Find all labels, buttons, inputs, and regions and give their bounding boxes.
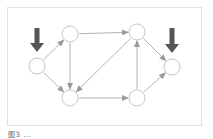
sink-marker-down-arrow-icon: [165, 28, 179, 53]
edge-A-C: [43, 72, 63, 91]
node-A: [29, 58, 45, 74]
edge-B-D: [79, 32, 128, 33]
edge-A-B: [43, 40, 63, 59]
source-marker-down-arrow-icon: [30, 28, 44, 52]
node-F: [164, 59, 180, 75]
edge-E-F: [144, 73, 166, 92]
edge-D-F: [143, 38, 165, 60]
directed-graph: [0, 0, 213, 139]
node-B: [62, 26, 78, 42]
markers-group: [30, 28, 179, 53]
node-D: [129, 24, 145, 40]
edge-D-C: [76, 38, 130, 91]
node-C: [62, 90, 78, 106]
figure-caption: 图3 ...: [8, 131, 31, 139]
nodes-group: [29, 24, 180, 106]
node-E: [129, 90, 145, 106]
edges-group: [43, 32, 165, 98]
